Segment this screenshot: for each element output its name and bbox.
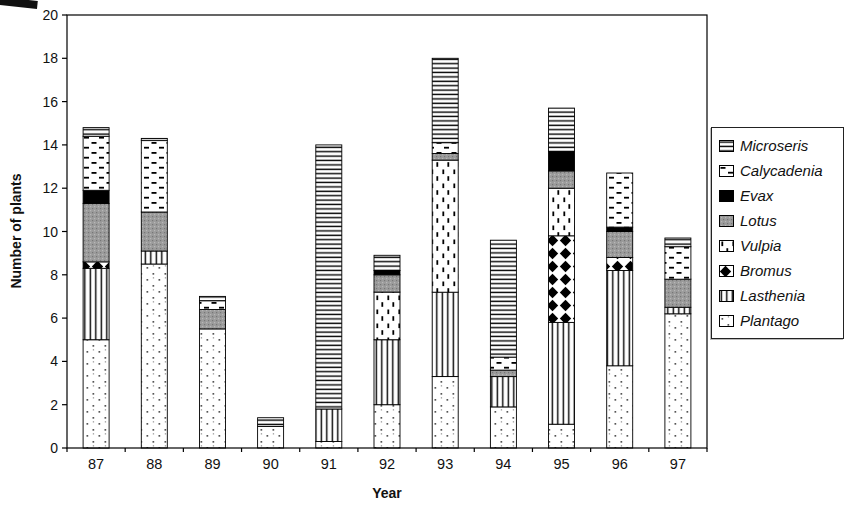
x-category-label: 88 [146,456,162,472]
bar-segment-87-microseris [83,128,109,137]
bar-segment-87-lotus [83,203,109,262]
bar-segment-88-calycadenia [141,141,167,212]
y-tick-label: 14 [42,137,58,153]
y-tick-label: 10 [42,224,58,240]
bar-segment-89-plantago [200,329,226,448]
legend-label: Calycadenia [740,162,823,179]
x-category-label: 91 [321,456,337,472]
y-tick-label: 6 [50,310,58,326]
y-tick-label: 4 [50,353,58,369]
bar-segment-95-evax [549,151,575,171]
bar-segment-94-lasthenia [490,377,516,407]
bar-segment-97-lotus [665,279,691,307]
bar-segment-96-bromus [607,258,633,271]
bar-segment-92-lotus [374,275,400,292]
y-tick-label: 20 [42,7,58,23]
bar-segment-93-plantago [432,377,458,448]
legend-label: Plantago [740,312,799,329]
bar-segment-97-plantago [665,314,691,448]
bar-segment-87-bromus [83,262,109,269]
bar-segment-91-lasthenia [316,409,342,442]
legend-label: Vulpia [740,237,781,254]
bar-segment-92-plantago [374,405,400,448]
legend-label: Bromus [740,262,792,279]
bar-segment-91-microseris [316,145,342,409]
bar-segment-96-evax [607,227,633,231]
legend-item-microseris: Microseris [719,133,840,158]
bar-segment-95-lotus [549,171,575,188]
bar-segment-88-lasthenia [141,251,167,264]
bar-segment-97-calycadenia [665,247,691,280]
legend-item-calycadenia: Calycadenia [719,158,840,183]
bar-segment-89-microseris [200,296,226,300]
legend-item-evax: Evax [719,183,840,208]
bar-segment-87-calycadenia [83,136,109,190]
stacked-bar-figure: 024681012141618208788899091929394959697 … [0,0,847,518]
bar-segment-92-microseris [374,255,400,270]
legend-label: Microseris [740,137,808,154]
y-tick-label: 18 [42,50,58,66]
bar-segment-95-lasthenia [549,322,575,424]
legend-swatch-vertical-lines-icon [719,290,734,302]
legend-item-plantago: Plantago [719,308,840,333]
bar-segment-93-vulpia [432,160,458,292]
legend: MicroserisCalycadeniaEvaxLotusVulpiaBrom… [711,127,844,339]
bar-segment-94-plantago [490,407,516,448]
bar-segment-91-plantago [316,442,342,449]
y-tick-label: 12 [42,180,58,196]
bar-segment-89-calycadenia [200,301,226,310]
legend-swatch-horizontal-dashes-icon [719,165,734,177]
x-category-label: 89 [204,456,220,472]
bar-segment-94-calycadenia [490,357,516,370]
legend-swatch-dots-icon [719,315,734,327]
bar-segment-89-lotus [200,309,226,329]
bar-segment-95-plantago [549,424,575,448]
legend-swatch-diamonds-icon [719,265,734,277]
bar-segment-93-lotus [432,154,458,161]
bar-segment-87-plantago [83,340,109,448]
bar-segment-94-microseris [490,240,516,357]
x-category-label: 87 [88,456,104,472]
bar-segment-92-lasthenia [374,340,400,405]
y-tick-label: 16 [42,94,58,110]
bar-segment-94-lotus [490,370,516,377]
x-axis-title: Year [372,485,402,501]
x-category-label: 95 [553,456,569,472]
bar-segment-87-lasthenia [83,268,109,339]
bar-segment-92-evax [374,271,400,275]
legend-item-bromus: Bromus [719,258,840,283]
y-tick-label: 8 [50,267,58,283]
bar-segment-88-lotus [141,212,167,251]
legend-swatch-vertical-dashes-icon [719,240,734,252]
bar-segment-90-microseris [258,418,284,427]
bar-segment-96-lotus [607,232,633,258]
x-category-label: 97 [670,456,686,472]
legend-item-lotus: Lotus [719,208,840,233]
bar-segment-93-calycadenia [432,143,458,154]
bar-segment-95-bromus [549,236,575,323]
bar-segment-96-plantago [607,366,633,448]
bar-segment-97-lasthenia [665,307,691,314]
legend-label: Evax [740,187,773,204]
bar-segment-87-evax [83,190,109,203]
bar-segment-95-microseris [549,108,575,151]
legend-item-vulpia: Vulpia [719,233,840,258]
legend-label: Lasthenia [740,287,805,304]
bar-segment-90-plantago [258,426,284,448]
bar-segment-95-vulpia [549,188,575,236]
bar-segment-93-lasthenia [432,292,458,376]
x-category-label: 90 [263,456,279,472]
y-tick-label: 2 [50,397,58,413]
bar-segment-92-vulpia [374,292,400,340]
bar-segment-88-microseris [141,138,167,140]
x-category-label: 92 [379,456,395,472]
x-category-label: 94 [495,456,511,472]
y-axis-title: Number of plants [8,173,24,288]
bar-segment-88-plantago [141,264,167,448]
bar-segment-93-microseris [432,58,458,142]
legend-item-lasthenia: Lasthenia [719,283,840,308]
bar-segment-96-lasthenia [607,271,633,366]
x-category-label: 96 [612,456,628,472]
x-category-label: 93 [437,456,453,472]
legend-swatch-solid-black-icon [719,190,734,202]
